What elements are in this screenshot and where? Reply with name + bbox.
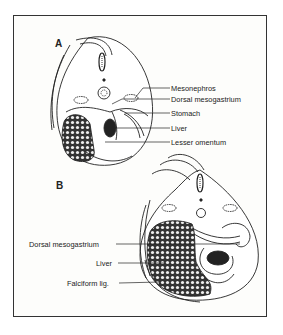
embryo-cross-sections: A B bbox=[0, 0, 283, 335]
panel-b-label: B bbox=[56, 180, 63, 191]
panel-a-label: A bbox=[55, 38, 62, 49]
label-a-dorsal-mesogastrium: Dorsal mesogastrium bbox=[171, 95, 241, 104]
section-a-drawing bbox=[51, 37, 153, 166]
label-a-lesser-omentum: Lesser omentum bbox=[171, 138, 226, 147]
label-b-falciform-lig: Falciform lig. bbox=[67, 279, 109, 288]
section-b-drawing bbox=[140, 154, 258, 302]
label-a-liver: Liver bbox=[171, 124, 187, 133]
label-a-stomach: Stomach bbox=[171, 109, 200, 118]
label-a-mesonephros: Mesonephros bbox=[171, 84, 216, 93]
label-b-dorsal-mesogastrium: Dorsal mesogastrium bbox=[29, 240, 99, 249]
label-b-liver: Liver bbox=[96, 259, 112, 268]
